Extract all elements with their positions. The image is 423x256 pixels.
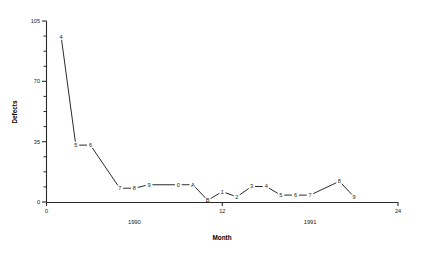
x-axis: 01224 19901991 — [45, 202, 401, 225]
data-point-label: 9 — [353, 194, 356, 200]
data-point-label: 6 — [89, 142, 92, 148]
data-point-label: 4 — [265, 183, 268, 189]
data-point-label: 7 — [309, 192, 312, 198]
data-point-labels: 4567890AB123456789 — [60, 34, 356, 204]
y-tick-label: 70 — [34, 78, 40, 84]
data-point-label: 6 — [294, 192, 297, 198]
data-point-label: 3 — [250, 183, 253, 189]
x-tick-label: 0 — [45, 208, 48, 214]
y-axis-tick-labels: 03570105 — [31, 18, 40, 205]
y-axis-title: Defects — [11, 100, 18, 124]
era-label: 1991 — [304, 219, 317, 225]
data-point-label: 0 — [177, 182, 180, 188]
data-point-label: 7 — [118, 185, 121, 191]
x-axis-era-labels: 19901991 — [128, 219, 317, 225]
data-point-label: 5 — [279, 192, 282, 198]
data-point-label: B — [206, 197, 210, 203]
data-point-label: 8 — [133, 185, 136, 191]
x-tick-label: 12 — [219, 208, 225, 214]
data-point-label: A — [191, 182, 195, 188]
data-point-label: 4 — [60, 34, 63, 40]
x-axis-title: Month — [212, 234, 231, 241]
chart-canvas: 03570105 01224 19901991 4567890AB1234567… — [0, 0, 423, 256]
data-point-label: 9 — [147, 182, 150, 188]
data-point-label: 8 — [338, 178, 341, 184]
era-label: 1990 — [128, 219, 141, 225]
data-point-label: 1 — [221, 189, 224, 195]
y-axis: 03570105 — [31, 18, 47, 205]
data-point-label: 5 — [74, 142, 77, 148]
series-polyline — [62, 40, 352, 199]
x-tick-label: 24 — [395, 208, 401, 214]
y-tick-label: 105 — [31, 18, 40, 24]
y-tick-label: 35 — [34, 139, 40, 145]
x-axis-tick-labels: 01224 — [45, 208, 401, 214]
data-series-line — [62, 40, 352, 199]
data-point-label: 2 — [235, 194, 238, 200]
y-tick-label: 0 — [37, 199, 40, 205]
defects-time-series-chart: 03570105 01224 19901991 4567890AB1234567… — [0, 0, 423, 256]
